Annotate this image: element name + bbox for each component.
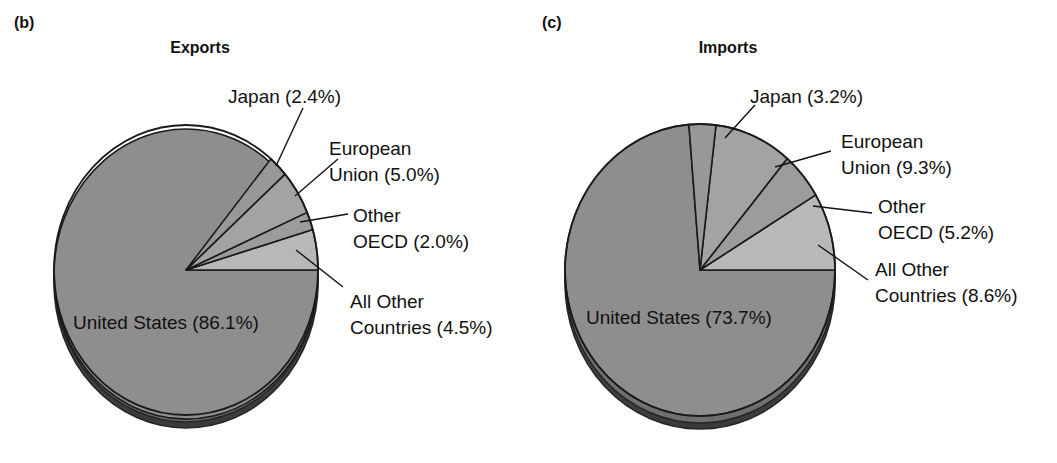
label-other-oecd-line2: OECD (2.0%) (353, 231, 469, 252)
pie-chart-exports: Japan (2.4%) European Union (5.0%) Other… (0, 0, 528, 463)
label-other-oecd-line2: OECD (5.2%) (878, 222, 994, 243)
pie-chart-imports: Japan (3.2%) European Union (9.3%) Other… (528, 0, 1057, 463)
label-european-union-line2: Union (9.3%) (841, 157, 952, 178)
label-all-other-countries-line2: Countries (8.6%) (875, 285, 1018, 306)
pie-slices-imports (565, 124, 835, 416)
label-united-states: United States (73.7%) (586, 307, 772, 328)
leader-line-japan (276, 108, 303, 166)
label-all-other-countries-line2: Countries (4.5%) (350, 317, 493, 338)
pie-slices-exports (54, 125, 318, 419)
label-other-oecd-line1: Other (878, 196, 926, 217)
label-all-other-countries-line1: All Other (350, 291, 425, 312)
label-japan: Japan (3.2%) (750, 86, 863, 107)
label-all-other-countries-line1: All Other (875, 259, 950, 280)
label-european-union-line1: European (841, 131, 923, 152)
label-european-union-line2: Union (5.0%) (329, 164, 440, 185)
label-other-oecd-line1: Other (353, 205, 401, 226)
label-european-union-line1: European (329, 138, 411, 159)
panel-imports: (c) Imports (528, 0, 1056, 463)
label-united-states: United States (86.1%) (73, 312, 259, 333)
label-japan: Japan (2.4%) (228, 86, 341, 107)
panel-exports: (b) Exports (0, 0, 528, 463)
